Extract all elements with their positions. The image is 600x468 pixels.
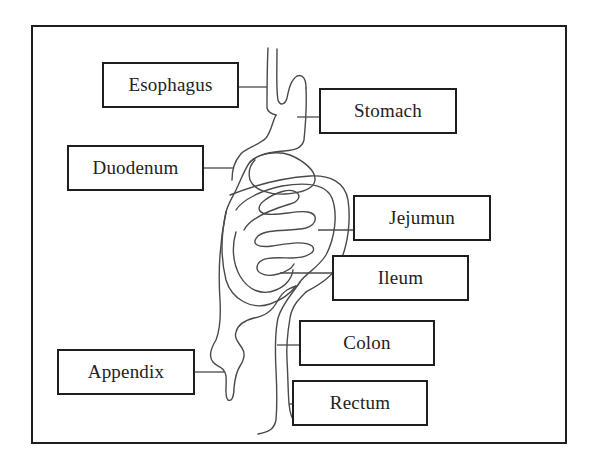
label-appendix-text: Appendix (88, 361, 165, 383)
label-stomach-text: Stomach (354, 100, 422, 122)
label-appendix: Appendix (57, 349, 195, 395)
label-ileum: Ileum (332, 255, 469, 301)
label-colon-text: Colon (343, 332, 390, 354)
small-intestine-shape (222, 176, 349, 306)
label-jejumun: Jejumun (353, 195, 491, 241)
duodenum-shape (249, 153, 315, 194)
label-colon: Colon (299, 320, 435, 366)
esophagus-shape (267, 48, 306, 115)
label-jejumun-text: Jejumun (389, 207, 455, 229)
label-duodenum-text: Duodenum (92, 157, 178, 179)
label-esophagus-text: Esophagus (128, 74, 212, 96)
label-ileum-text: Ileum (378, 267, 423, 289)
label-rectum-text: Rectum (330, 392, 390, 414)
label-stomach: Stomach (319, 88, 457, 134)
label-rectum: Rectum (292, 380, 428, 426)
label-esophagus: Esophagus (102, 62, 239, 108)
label-duodenum: Duodenum (67, 145, 204, 191)
